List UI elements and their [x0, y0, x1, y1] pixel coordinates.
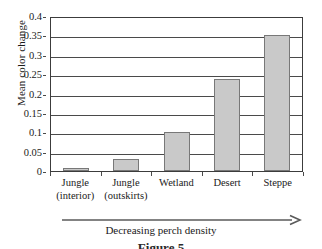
x-axis-category-label: Jungle(outskirts) — [101, 177, 152, 202]
figure-bar-chart: Mean color change 00.050.10.150.20.250.3… — [0, 0, 322, 249]
decreasing-perch-density-arrow-icon — [62, 212, 302, 224]
x-axis-category-label-line1: Jungle — [112, 177, 139, 188]
y-axis-tick-mark — [43, 75, 46, 76]
y-axis-tick-label: 0.2 — [29, 90, 42, 100]
bar-series — [51, 18, 302, 171]
bar — [214, 79, 240, 171]
y-axis-tick-mark — [43, 153, 46, 154]
x-axis-tick-mark — [303, 172, 304, 176]
x-axis-tick-mark — [50, 172, 51, 176]
y-axis-tick-mark — [43, 172, 46, 173]
y-axis-tick-mark — [43, 95, 46, 96]
figure-caption: Figure 5 — [0, 240, 322, 249]
plot-area — [50, 17, 303, 172]
y-axis-tick-mark — [43, 56, 46, 57]
x-axis-category-label-line2: (outskirts) — [101, 190, 152, 203]
y-axis-tick-label: 0 — [37, 167, 42, 177]
bar-slot — [202, 18, 252, 171]
y-axis-tick-label: 0.1 — [29, 128, 42, 138]
x-axis-tick-mark — [101, 172, 102, 176]
y-axis-tick-mark — [43, 133, 46, 134]
y-axis-tick-label: 0.25 — [24, 70, 42, 80]
bar-slot — [151, 18, 201, 171]
x-axis-category-label-line1: Desert — [213, 177, 240, 188]
bar — [63, 168, 89, 171]
bar-slot — [51, 18, 101, 171]
x-axis-category-label: Wetland — [151, 177, 202, 202]
y-axis-tick-mark — [43, 114, 46, 115]
x-axis-category-label: Jungle(interior) — [50, 177, 101, 202]
bar — [113, 159, 139, 171]
bar — [164, 132, 190, 171]
x-axis-tick-mark — [202, 172, 203, 176]
y-axis-tick-label: 0.15 — [24, 109, 42, 119]
x-axis-tick-mark — [151, 172, 152, 176]
y-axis-tick-label: 0.3 — [29, 51, 42, 61]
y-axis-tick-label: 0.05 — [24, 148, 42, 158]
x-axis-category-label-line1: Jungle — [62, 177, 89, 188]
bar-slot — [252, 18, 302, 171]
y-axis-tick-mark — [43, 36, 46, 37]
x-axis-tick-mark — [252, 172, 253, 176]
x-axis-label-group: Jungle(interior)Jungle(outskirts)Wetland… — [50, 177, 303, 202]
x-axis-category-label-line2: (interior) — [50, 190, 101, 203]
x-axis-title: Decreasing perch density — [0, 224, 322, 236]
x-axis-category-label-line1: Steppe — [263, 177, 292, 188]
bar-slot — [101, 18, 151, 171]
y-axis-tick-label: 0.35 — [24, 31, 42, 41]
y-axis-tick-group: 00.050.10.150.20.250.30.350.4 — [0, 17, 46, 172]
bar — [264, 35, 290, 171]
x-axis-category-label-line1: Wetland — [159, 177, 194, 188]
x-axis-category-label: Steppe — [252, 177, 303, 202]
y-axis-tick-mark — [43, 17, 46, 18]
y-axis-tick-label: 0.4 — [29, 12, 42, 22]
x-axis-category-label: Desert — [202, 177, 253, 202]
